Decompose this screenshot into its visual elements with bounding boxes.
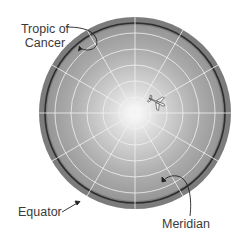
tropic-label-line2: Cancer bbox=[14, 36, 76, 50]
meridian-label: Meridian bbox=[162, 217, 210, 231]
equator-leader-arrow bbox=[62, 201, 80, 212]
tropic-label-line1: Tropic of bbox=[14, 22, 76, 36]
equator-label: Equator bbox=[18, 205, 62, 219]
tropic-of-cancer-label: Tropic of Cancer bbox=[14, 22, 76, 50]
polar-globe-diagram: Tropic of Cancer Equator Meridian bbox=[0, 0, 245, 237]
